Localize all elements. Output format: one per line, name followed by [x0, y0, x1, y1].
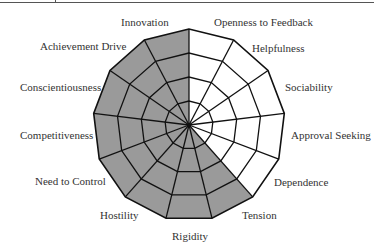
label-sociability: Sociability	[285, 81, 333, 93]
label-helpfulness: Helpfulness	[252, 42, 305, 54]
label-tension: Tension	[242, 209, 277, 221]
label-competitiveness: Competitiveness	[20, 129, 93, 141]
label-need-to-control: Need to Control	[35, 175, 106, 187]
label-innovation: Innovation	[121, 16, 169, 28]
circumplex-wheel	[0, 0, 374, 250]
label-openness-to-feedback: Openness to Feedback	[214, 16, 313, 28]
center-hub	[187, 123, 191, 127]
label-conscientiousness: Conscientiousness	[20, 81, 101, 93]
label-rigidity: Rigidity	[172, 230, 208, 242]
label-hostility: Hostility	[100, 209, 139, 221]
label-achievement-drive: Achievement Drive	[40, 40, 126, 52]
label-approval-seeking: Approval Seeking	[291, 129, 371, 141]
label-dependence: Dependence	[274, 176, 328, 188]
